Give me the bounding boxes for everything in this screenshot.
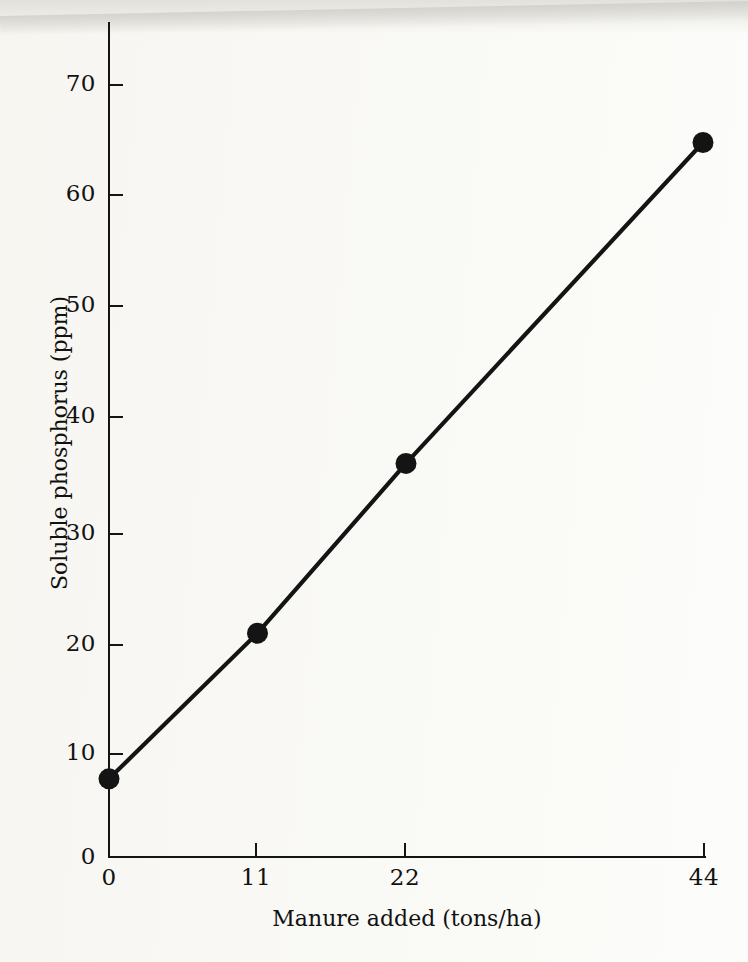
data-point-marker [396, 453, 417, 474]
data-point-marker [99, 768, 120, 789]
data-point-marker [693, 132, 714, 153]
chart-figure: 70 60 50 40 30 20 10 0 0 11 22 44 Solubl… [0, 0, 748, 962]
data-point-marker [247, 623, 268, 644]
plot-area [0, 0, 748, 962]
